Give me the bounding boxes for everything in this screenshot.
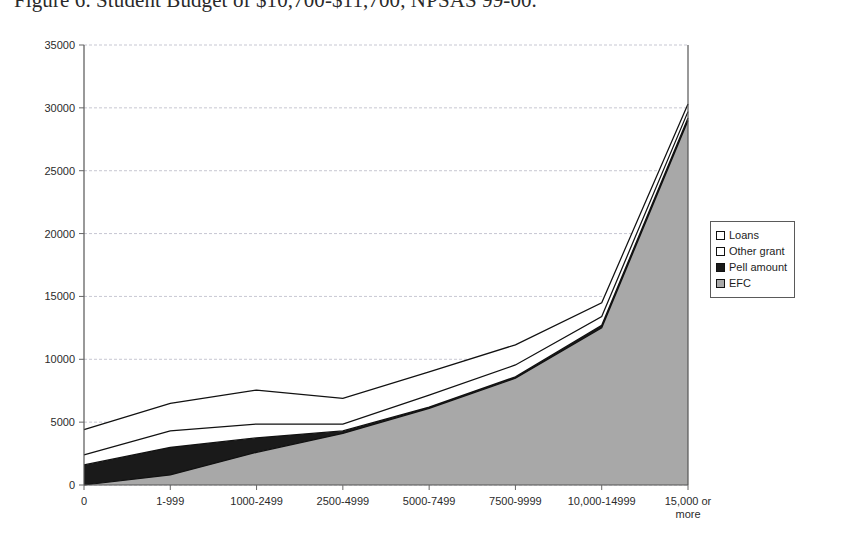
y-tick-label: 30000 [44,102,75,114]
x-tick-label: 0 [81,495,87,507]
chart-canvas: 05000100001500020000250003000035000 01-9… [0,30,760,548]
legend-swatch-efc [716,279,725,288]
y-tick-label: 5000 [51,416,75,428]
legend-item-efc: EFC [716,276,787,291]
legend-label-efc: EFC [729,278,751,289]
y-tick-label: 25000 [44,165,75,177]
x-tick-label: 1000-2499 [230,495,283,507]
legend-swatch-other-grant [716,247,725,256]
area-series-group [84,104,688,485]
x-tick-label: 10,000-14999 [568,495,636,507]
legend-swatch-pell-amount [716,263,725,272]
legend-label-other-grant: Other grant [729,246,785,257]
y-tick-label: 10000 [44,353,75,365]
figure-caption: Figure 6. Student Budget of $10,700-$11,… [14,0,537,13]
legend-swatch-loans [716,231,725,240]
x-tick-label: 7500-9999 [489,495,542,507]
x-tick-label: 1-999 [156,495,184,507]
x-tick-label: 5000-7499 [403,495,456,507]
x-axis-ticks: 01-9991000-24992500-49995000-74997500-99… [81,485,712,520]
y-tick-label: 20000 [44,228,75,240]
legend-label-loans: Loans [729,230,759,241]
legend-item-pell-amount: Pell amount [716,260,787,275]
x-tick-label: 2500-4999 [317,495,370,507]
legend-label-pell-amount: Pell amount [729,262,787,273]
y-tick-label: 15000 [44,290,75,302]
y-tick-label: 0 [69,479,75,491]
chart-legend: Loans Other grant Pell amount EFC [710,221,795,298]
legend-item-loans: Loans [716,228,787,243]
stacked-area-chart: 05000100001500020000250003000035000 01-9… [0,30,760,548]
y-axis-ticks: 05000100001500020000250003000035000 [44,39,84,491]
y-tick-label: 35000 [44,39,75,51]
legend-item-other-grant: Other grant [716,244,787,259]
x-tick-label: 15,000 ormore [665,495,712,520]
